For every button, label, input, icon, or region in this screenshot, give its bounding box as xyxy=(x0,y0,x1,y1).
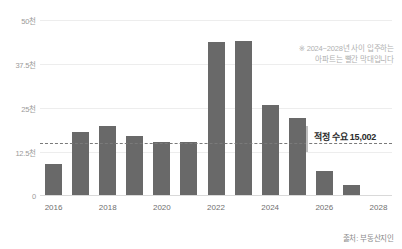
y-tick-label-12_5k: 12.5천 xyxy=(2,147,36,158)
x-tick-label-2022: 2022 xyxy=(207,203,225,212)
bar-2020 xyxy=(153,142,170,195)
bar-2016 xyxy=(45,164,62,195)
x-tick-label-2026: 2026 xyxy=(315,203,333,212)
y-tick-label-50k: 50천 xyxy=(2,15,36,26)
bar-2024 xyxy=(262,105,279,195)
x-tick-label-2028: 2028 xyxy=(370,203,388,212)
bar-2021 xyxy=(180,142,197,195)
x-tick-label-2020: 2020 xyxy=(153,203,171,212)
bar-2017 xyxy=(72,132,89,195)
annotation-line-1: ※ 2024~2028년 사이 입주하는 xyxy=(299,43,394,54)
annotation-line-2: 아파트는 빨간 막대입니다 xyxy=(315,54,394,65)
y-tick-label-0: 0 xyxy=(2,192,36,201)
bar-2027 xyxy=(343,185,360,195)
bar-2025 xyxy=(289,118,306,195)
bar-2022 xyxy=(208,42,225,195)
x-tick-label-2018: 2018 xyxy=(99,203,117,212)
threshold-label-marker xyxy=(306,126,308,152)
bar-2023 xyxy=(235,41,252,195)
axis-baseline xyxy=(40,195,392,196)
y-tick-label-25k: 25천 xyxy=(2,103,36,114)
x-tick-label-2016: 2016 xyxy=(45,203,63,212)
bar-2019 xyxy=(126,136,143,195)
bar-2026 xyxy=(316,171,333,195)
y-tick-label-37_5k: 37.5천 xyxy=(2,59,36,70)
x-tick-label-2024: 2024 xyxy=(261,203,279,212)
threshold-label: 적정 수요 15,002 xyxy=(314,130,376,143)
x-axis: 2016201820202022202420262028 xyxy=(40,200,392,216)
source-label: 출처: 부동산지인 xyxy=(343,232,394,243)
bar-2018 xyxy=(99,126,116,195)
bar-chart: 50천 37.5천 25천 12.5천 0 201620182020202220… xyxy=(0,0,402,249)
threshold-line xyxy=(40,143,392,144)
